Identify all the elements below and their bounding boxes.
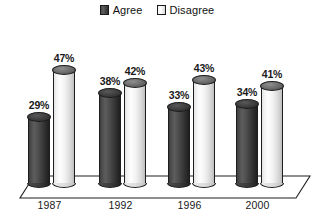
bar-body <box>261 86 283 183</box>
bar-top-ellipse <box>235 99 259 109</box>
plot-area: 29%47%38%42%33%43%34%41% 198719921996200… <box>0 0 314 223</box>
bar-body <box>236 104 258 183</box>
category-label-1987: 1987 <box>38 199 62 211</box>
bar-disagree-2000: 41% <box>261 81 283 188</box>
bar-body <box>193 80 215 183</box>
bar-body <box>28 117 50 183</box>
bar-body <box>168 107 190 183</box>
bar-body <box>53 70 75 183</box>
bar-agree-1987: 29% <box>28 112 50 188</box>
bar-body <box>124 83 146 183</box>
bar-group-container: 29%47%38%42%33%43%34%41% <box>0 0 314 223</box>
bar-value-label: 43% <box>194 62 215 74</box>
bar-agree-1996: 33% <box>168 102 190 188</box>
bar-agree-1992: 38% <box>99 88 121 188</box>
bar-value-label: 47% <box>54 52 75 64</box>
bar-value-label: 34% <box>237 86 258 98</box>
category-label-1992: 1992 <box>109 199 133 211</box>
bar-body <box>99 93 121 183</box>
bar-top-ellipse <box>167 102 191 112</box>
bar-value-label: 42% <box>125 65 146 77</box>
bar-value-label: 33% <box>169 89 190 101</box>
bar-value-label: 38% <box>100 75 121 87</box>
bar-top-ellipse <box>52 65 76 75</box>
bar-top-ellipse <box>27 112 51 122</box>
category-label-2000: 2000 <box>246 199 270 211</box>
bar-disagree-1996: 43% <box>193 75 215 188</box>
bar-chart: Agree Disagree 29%47%38%42%33%43%34%41% … <box>0 0 314 223</box>
bar-disagree-1987: 47% <box>53 65 75 188</box>
bar-value-label: 41% <box>262 68 283 80</box>
bar-agree-2000: 34% <box>236 99 258 188</box>
bar-top-ellipse <box>123 78 147 88</box>
bar-value-label: 29% <box>29 99 50 111</box>
bar-top-ellipse <box>260 81 284 91</box>
bar-disagree-1992: 42% <box>124 78 146 188</box>
category-label-1996: 1996 <box>178 199 202 211</box>
